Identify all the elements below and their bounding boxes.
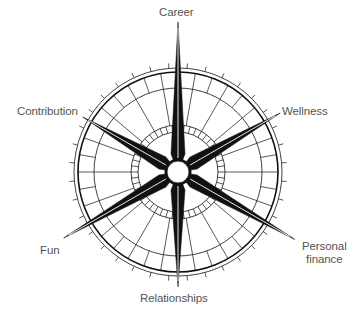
- label-personal-finance: Personal finance: [302, 240, 347, 266]
- life-compass-diagram: [0, 0, 364, 319]
- label-personal-finance-line1: Personal: [302, 240, 347, 253]
- label-career: Career: [159, 6, 194, 19]
- label-fun: Fun: [40, 244, 60, 257]
- label-personal-finance-line2: finance: [302, 253, 347, 266]
- label-wellness: Wellness: [282, 105, 328, 118]
- compass-hub: [165, 159, 192, 186]
- label-relationships: Relationships: [140, 292, 208, 305]
- label-contribution: Contribution: [17, 105, 78, 118]
